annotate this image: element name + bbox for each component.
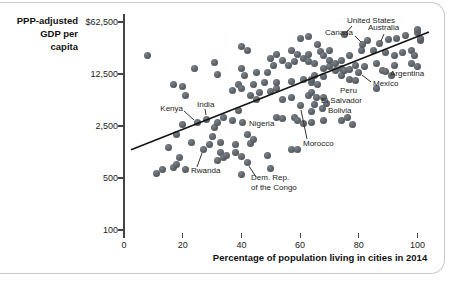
data-point bbox=[319, 105, 326, 112]
country-label-line: Argentina bbox=[390, 69, 424, 79]
data-point bbox=[300, 76, 307, 83]
data-point bbox=[256, 89, 263, 96]
x-tick-mark bbox=[417, 233, 418, 238]
leader-line bbox=[184, 111, 194, 120]
data-point bbox=[241, 72, 248, 79]
data-point bbox=[411, 52, 418, 59]
data-point bbox=[297, 35, 304, 42]
data-point bbox=[313, 94, 320, 101]
data-point bbox=[314, 81, 321, 88]
data-point bbox=[165, 144, 172, 151]
data-point bbox=[214, 71, 221, 78]
x-tick-mark bbox=[182, 233, 183, 238]
country-label: Mexico bbox=[373, 79, 398, 89]
country-label-line: Bolivia bbox=[328, 106, 352, 116]
data-point bbox=[308, 119, 315, 126]
data-point bbox=[338, 57, 345, 64]
leader-line bbox=[362, 75, 371, 82]
data-point bbox=[182, 166, 189, 173]
leader-line bbox=[197, 153, 202, 167]
data-point bbox=[399, 49, 406, 56]
x-tick-label: 100 bbox=[410, 240, 425, 250]
data-point bbox=[176, 154, 183, 161]
country-label: Rwanda bbox=[191, 166, 220, 176]
data-point bbox=[352, 77, 359, 84]
data-point bbox=[220, 114, 227, 121]
x-tick-label: 20 bbox=[178, 240, 188, 250]
data-point bbox=[229, 117, 236, 124]
y-tick-label: 500 bbox=[54, 173, 118, 183]
data-point bbox=[349, 121, 356, 128]
data-point bbox=[311, 101, 318, 108]
data-point bbox=[238, 65, 245, 72]
data-point bbox=[191, 65, 198, 72]
data-point bbox=[179, 83, 186, 90]
data-point bbox=[300, 120, 307, 127]
data-point bbox=[203, 116, 210, 123]
x-tick-label: 40 bbox=[236, 240, 246, 250]
country-label-line: Nigeria bbox=[249, 119, 274, 129]
country-label: India bbox=[197, 100, 214, 110]
data-point bbox=[370, 47, 377, 54]
data-point bbox=[144, 52, 151, 59]
data-point bbox=[267, 165, 274, 172]
country-label-line: Australia bbox=[368, 23, 399, 33]
x-tick-label: 0 bbox=[121, 240, 126, 250]
data-point bbox=[320, 73, 327, 80]
data-point bbox=[270, 62, 277, 69]
data-point bbox=[209, 133, 216, 140]
data-point bbox=[173, 161, 180, 168]
y-tick-label: 2,500 bbox=[54, 121, 118, 131]
data-point bbox=[211, 59, 218, 66]
data-point bbox=[294, 146, 301, 153]
data-point bbox=[239, 119, 246, 126]
data-point bbox=[314, 41, 321, 48]
country-label-line: Kenya bbox=[160, 104, 183, 114]
x-tick-mark bbox=[358, 233, 359, 238]
data-point bbox=[279, 96, 286, 103]
data-point bbox=[308, 108, 315, 115]
data-point bbox=[311, 60, 318, 67]
data-point bbox=[305, 33, 312, 40]
country-label: Peru bbox=[340, 86, 357, 96]
data-point bbox=[264, 152, 271, 159]
country-label-line: Canada bbox=[325, 28, 353, 38]
data-point bbox=[238, 85, 245, 92]
x-tick-label: 80 bbox=[354, 240, 364, 250]
data-point bbox=[373, 60, 380, 67]
x-tick-mark bbox=[123, 233, 124, 238]
country-label: Bolivia bbox=[328, 106, 352, 116]
data-point bbox=[223, 152, 230, 159]
chart-panel: PPP-adjusted GDP per capita United State… bbox=[0, 0, 450, 284]
y-axis-line bbox=[123, 14, 124, 237]
y-tick-mark bbox=[118, 21, 123, 22]
x-tick-mark bbox=[300, 233, 301, 238]
y-tick-label: 12,500 bbox=[54, 69, 118, 79]
data-point bbox=[382, 49, 389, 56]
y-tick-label: $62,500 bbox=[54, 17, 118, 27]
data-point bbox=[188, 139, 195, 146]
data-point bbox=[382, 68, 389, 75]
data-point bbox=[385, 36, 392, 43]
data-point bbox=[235, 107, 242, 114]
country-label-line: India bbox=[197, 100, 214, 110]
data-point bbox=[361, 63, 368, 70]
data-point bbox=[173, 131, 180, 138]
country-label: Nigeria bbox=[249, 119, 274, 129]
data-point bbox=[305, 51, 312, 58]
data-point bbox=[232, 141, 239, 148]
data-point bbox=[273, 51, 280, 58]
y-tick-mark bbox=[118, 125, 123, 126]
x-tick-mark bbox=[241, 233, 242, 238]
data-point bbox=[346, 52, 353, 59]
country-label-line: Rwanda bbox=[191, 166, 220, 176]
data-point bbox=[244, 47, 251, 54]
data-point bbox=[179, 121, 186, 128]
data-point bbox=[297, 102, 304, 109]
data-point bbox=[200, 146, 207, 153]
data-point bbox=[250, 136, 257, 143]
data-point bbox=[238, 171, 245, 178]
data-point bbox=[244, 159, 251, 166]
data-point bbox=[355, 69, 362, 76]
data-point bbox=[391, 62, 398, 69]
